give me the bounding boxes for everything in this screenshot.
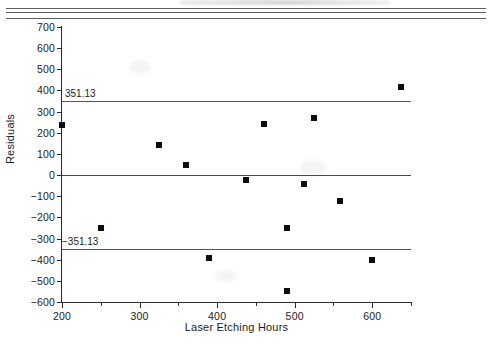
y-axis-tick xyxy=(57,133,62,134)
y-axis-tick xyxy=(57,69,62,70)
data-point xyxy=(398,84,404,90)
x-axis-minor-tick xyxy=(333,302,334,306)
y-axis-tick-label: 100 xyxy=(37,149,55,160)
y-axis-tick-label: −500 xyxy=(31,276,55,287)
x-axis-minor-tick xyxy=(411,302,412,306)
data-point xyxy=(156,142,162,148)
x-axis-tick-label: 600 xyxy=(363,311,381,322)
data-point xyxy=(206,255,212,261)
header-rule-1 xyxy=(6,8,486,9)
y-axis-tick-label: −100 xyxy=(31,191,55,202)
y-axis-tick xyxy=(57,48,62,49)
reference-line-label-upper-control-limit: 351.13 xyxy=(65,89,96,99)
x-axis-tick-label: 300 xyxy=(130,311,148,322)
y-axis-tick-label: 0 xyxy=(49,170,55,181)
data-point xyxy=(301,181,307,187)
plot-area: 7006005004003002001000−100−200−300−400−5… xyxy=(62,27,411,302)
x-axis-tick xyxy=(62,302,63,308)
y-axis-tick xyxy=(57,27,62,28)
data-point xyxy=(311,115,317,121)
data-point xyxy=(183,162,189,168)
x-axis-line xyxy=(61,302,412,303)
y-axis-tick xyxy=(57,260,62,261)
x-axis-tick xyxy=(372,302,373,308)
data-point xyxy=(284,225,290,231)
x-axis-tick-label: 500 xyxy=(286,311,304,322)
y-axis-title: Residuals xyxy=(4,114,16,164)
x-axis-tick-label: 200 xyxy=(53,311,71,322)
x-axis-tick xyxy=(295,302,296,308)
y-axis-tick-label: −600 xyxy=(31,297,55,308)
y-axis-tick-label: −400 xyxy=(31,254,55,265)
y-axis-tick xyxy=(57,196,62,197)
chart-canvas: 7006005004003002001000−100−200−300−400−5… xyxy=(0,0,491,350)
data-point xyxy=(98,225,104,231)
header-rule-2 xyxy=(6,12,486,13)
x-axis-minor-tick xyxy=(256,302,257,306)
y-axis-tick xyxy=(57,154,62,155)
y-axis-tick xyxy=(57,112,62,113)
y-axis-tick-label: −200 xyxy=(31,212,55,223)
data-point xyxy=(261,121,267,127)
header-rule-3 xyxy=(6,18,486,19)
y-axis-tick-label: 600 xyxy=(37,43,55,54)
y-axis-tick xyxy=(57,90,62,91)
reference-line-center-line xyxy=(62,175,411,176)
y-axis-tick xyxy=(57,281,62,282)
x-axis-tick-label: 400 xyxy=(208,311,226,322)
data-point xyxy=(59,122,65,128)
reference-line-upper-control-limit xyxy=(62,101,411,102)
x-axis-minor-tick xyxy=(178,302,179,306)
data-point xyxy=(243,177,249,183)
data-point xyxy=(337,198,343,204)
reference-line-label-lower-control-limit: −351.13 xyxy=(62,237,98,247)
y-axis-tick-label: −300 xyxy=(31,233,55,244)
x-axis-minor-tick xyxy=(101,302,102,306)
y-axis-tick-label: 700 xyxy=(37,22,55,33)
x-axis-tick xyxy=(217,302,218,308)
cut-off-text-remnant xyxy=(180,0,390,5)
y-axis-tick-label: 300 xyxy=(37,106,55,117)
x-axis-tick xyxy=(140,302,141,308)
reference-line-lower-control-limit xyxy=(62,249,411,250)
data-point xyxy=(369,257,375,263)
y-axis-tick xyxy=(57,217,62,218)
y-axis-tick-label: 500 xyxy=(37,64,55,75)
data-point xyxy=(284,288,290,294)
x-axis-title: Laser Etching Hours xyxy=(62,321,411,333)
y-axis-tick-label: 400 xyxy=(37,85,55,96)
y-axis-tick-label: 200 xyxy=(37,128,55,139)
